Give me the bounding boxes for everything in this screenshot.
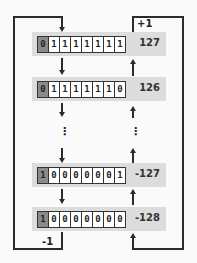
sign-bit: 0 — [38, 82, 49, 97]
left-loop-bottom — [13, 248, 63, 250]
bit: 1 — [71, 82, 82, 97]
bit: 0 — [71, 168, 82, 183]
bit: 0 — [49, 168, 60, 183]
bit: 0 — [82, 168, 93, 183]
row-127: 0 1 1 1 1 1 1 1 127 — [32, 32, 166, 56]
bit: 0 — [104, 168, 115, 183]
right-loop-side — [182, 16, 184, 250]
row-126: 0 1 1 1 1 1 1 0 126 — [32, 77, 166, 101]
bit: 0 — [60, 168, 71, 183]
bit: 1 — [93, 37, 104, 52]
bit: 0 — [49, 212, 60, 227]
row-minus-127: 1 0 0 0 0 0 0 1 -127 — [32, 163, 166, 187]
left-loop-exit — [61, 232, 63, 250]
bit: 1 — [60, 37, 71, 52]
sign-bit: 1 — [38, 168, 49, 183]
arrow-up-icon — [130, 106, 136, 111]
right-loop-entry — [132, 238, 134, 250]
bit: 0 — [82, 212, 93, 227]
right-loop-exit — [132, 16, 134, 33]
bit: 1 — [49, 37, 60, 52]
bit: 0 — [104, 212, 115, 227]
bit-cells: 1 0 0 0 0 0 0 1 — [37, 167, 126, 184]
arrow-down-icon — [59, 112, 65, 117]
decimal-value: -127 — [135, 168, 160, 179]
bit: 1 — [82, 37, 93, 52]
bit: 0 — [115, 212, 125, 227]
up-connector — [132, 110, 134, 118]
right-loop-bottom — [132, 248, 184, 250]
bit: 0 — [60, 212, 71, 227]
bit: 0 — [93, 168, 104, 183]
bit: 1 — [104, 37, 115, 52]
sign-bit: 1 — [38, 212, 49, 227]
sign-bit: 0 — [38, 37, 49, 52]
ellipsis-right: ⋮ — [130, 130, 136, 134]
bit: 1 — [104, 82, 115, 97]
bit: 0 — [93, 212, 104, 227]
bit: 0 — [71, 212, 82, 227]
bit: 1 — [93, 82, 104, 97]
row-minus-128: 1 0 0 0 0 0 0 0 -128 — [32, 207, 166, 231]
decimal-value: 126 — [139, 82, 160, 93]
bit-cells: 0 1 1 1 1 1 1 0 — [37, 81, 126, 98]
increment-label: +1 — [137, 18, 152, 29]
up-connector — [132, 63, 134, 76]
bit: 0 — [115, 82, 125, 97]
arrow-down-icon — [59, 70, 65, 75]
up-connector — [132, 193, 134, 205]
bit: 1 — [115, 168, 125, 183]
bit-cells: 0 1 1 1 1 1 1 1 — [37, 36, 126, 53]
arrow-down-icon — [59, 199, 65, 204]
decrement-label: -1 — [42, 236, 53, 247]
ellipsis-left: ⋮ — [59, 130, 65, 134]
arrow-up-icon — [130, 189, 136, 194]
bit: 1 — [115, 37, 125, 52]
bit: 1 — [60, 82, 71, 97]
bit: 1 — [82, 82, 93, 97]
left-loop-side — [13, 16, 15, 250]
arrow-up-icon — [130, 59, 136, 64]
up-connector — [132, 152, 134, 163]
arrow-up-icon — [130, 148, 136, 153]
left-loop-top — [13, 16, 63, 18]
decimal-value: 127 — [139, 37, 160, 48]
decimal-value: -128 — [135, 212, 160, 223]
bit: 1 — [71, 37, 82, 52]
arrow-up-icon — [130, 233, 136, 238]
bit-cells: 1 0 0 0 0 0 0 0 — [37, 211, 126, 228]
bit: 1 — [49, 82, 60, 97]
